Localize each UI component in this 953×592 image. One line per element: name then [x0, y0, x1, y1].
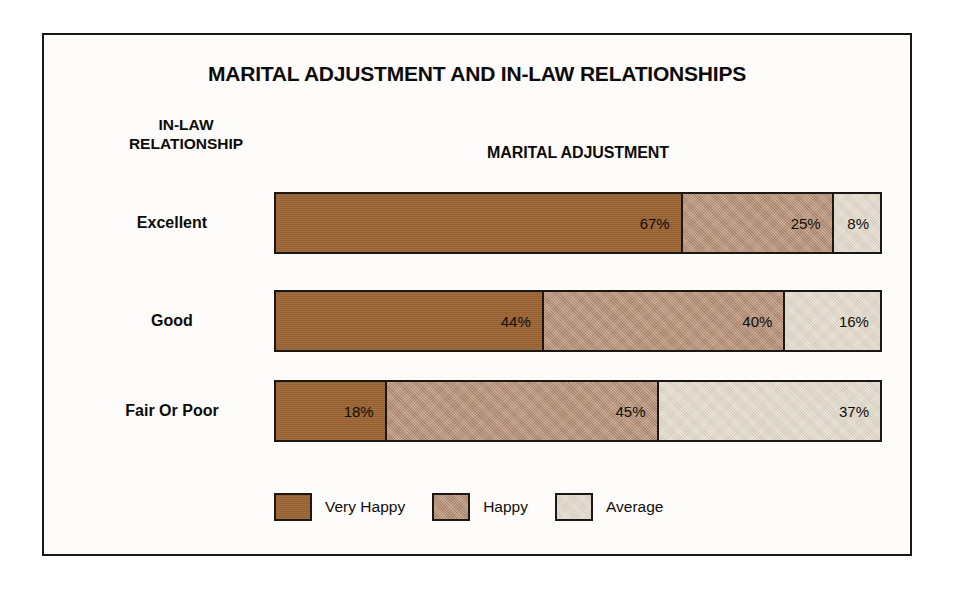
segment-value: 25% [791, 215, 832, 232]
chart-title: MARITAL ADJUSTMENT AND IN-LAW RELATIONSH… [44, 62, 910, 86]
row-label: Excellent [74, 192, 270, 254]
column-axis-header: MARITAL ADJUSTMENT [274, 144, 882, 162]
chart-frame: MARITAL ADJUSTMENT AND IN-LAW RELATIONSH… [42, 33, 912, 556]
legend-item-very-happy[interactable]: Very Happy [274, 493, 405, 521]
bar-segment-very-happy[interactable]: 44% [276, 292, 542, 350]
segment-value: 16% [839, 313, 880, 330]
row-label: Good [74, 290, 270, 352]
segment-value: 67% [640, 215, 681, 232]
legend-swatch-icon [274, 493, 312, 521]
bar-segment-average[interactable]: 37% [657, 382, 880, 440]
bar-segment-very-happy[interactable]: 18% [276, 382, 385, 440]
segment-value: 44% [501, 313, 542, 330]
bar-segment-average[interactable]: 16% [783, 292, 880, 350]
stacked-bar: 67% 25% 8% [274, 192, 882, 254]
bar-segment-average[interactable]: 8% [832, 194, 880, 252]
row-axis-header-line1: IN-LAW [90, 115, 282, 134]
bar-segment-happy[interactable]: 25% [681, 194, 832, 252]
row-axis-header: IN-LAW RELATIONSHIP [90, 115, 282, 153]
bar-segment-very-happy[interactable]: 67% [276, 194, 681, 252]
row-label: Fair Or Poor [74, 380, 270, 442]
chart-row: Good 44% 40% 16% [44, 290, 910, 352]
chart-row: Fair Or Poor 18% 45% 37% [44, 380, 910, 442]
row-axis-header-line2: RELATIONSHIP [90, 134, 282, 153]
stacked-bar: 44% 40% 16% [274, 290, 882, 352]
legend-label: Average [606, 498, 663, 516]
segment-value: 45% [615, 403, 656, 420]
bar-segment-happy[interactable]: 45% [385, 382, 657, 440]
bar-segment-happy[interactable]: 40% [542, 292, 784, 350]
legend-swatch-icon [432, 493, 470, 521]
legend-item-happy[interactable]: Happy [432, 493, 528, 521]
segment-value: 40% [742, 313, 783, 330]
segment-value: 37% [839, 403, 880, 420]
legend-item-average[interactable]: Average [555, 493, 663, 521]
legend-swatch-icon [555, 493, 593, 521]
legend-label: Very Happy [325, 498, 405, 516]
segment-value: 8% [847, 215, 880, 232]
legend-label: Happy [483, 498, 528, 516]
stacked-bar: 18% 45% 37% [274, 380, 882, 442]
segment-value: 18% [344, 403, 385, 420]
chart-row: Excellent 67% 25% 8% [44, 192, 910, 254]
chart-legend: Very Happy Happy Average [274, 490, 882, 524]
